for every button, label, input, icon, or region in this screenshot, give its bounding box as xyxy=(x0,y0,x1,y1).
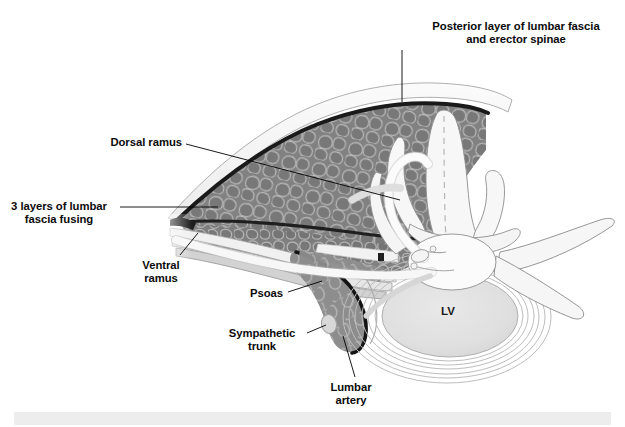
nerve-rootlet-tip-2 xyxy=(430,246,436,252)
label-dorsal-ramus-line1: Dorsal ramus xyxy=(22,136,182,149)
label-3-layers-of-lumbar-fascia-fusing-line2: fascia fusing xyxy=(3,213,115,226)
label-psoas: Psoas xyxy=(228,287,283,300)
label-ventral-ramus-line2: ramus xyxy=(130,272,192,285)
label-3-layers-of-lumbar-fascia-fusing-line1: 3 layers of lumbar xyxy=(3,200,115,213)
label-lumbar-artery-line2: artery xyxy=(320,394,382,407)
label-sympathetic-trunk: Sympathetictrunk xyxy=(222,327,302,354)
tendon-marker xyxy=(378,253,384,261)
label-lumbar-artery-line1: Lumbar xyxy=(320,381,382,394)
label-posterior-layer-of-lumbar-fascia-and-erector-spinae-line2: and erector spinae xyxy=(401,33,625,46)
label-psoas-line1: Psoas xyxy=(228,287,283,300)
label-posterior-layer-of-lumbar-fascia-and-erector-spinae-line1: Posterior layer of lumbar fascia xyxy=(401,20,625,33)
nerve-rootlet-tip xyxy=(411,263,417,269)
footer-strip xyxy=(14,412,611,425)
label-ventral-ramus: Ventralramus xyxy=(130,259,192,286)
label-posterior-layer-of-lumbar-fascia-and-erector-spinae: Posterior layer of lumbar fasciaand erec… xyxy=(401,20,625,47)
label-dorsal-ramus: Dorsal ramus xyxy=(22,136,182,149)
label-ventral-ramus-line1: Ventral xyxy=(130,259,192,272)
label-sympathetic-trunk-line2: trunk xyxy=(222,340,302,353)
label-sympathetic-trunk-line1: Sympathetic xyxy=(222,327,302,340)
label-3-layers-of-lumbar-fascia-fusing: 3 layers of lumbarfascia fusing xyxy=(3,200,115,227)
label-lumbar-artery: Lumbarartery xyxy=(320,381,382,408)
vertebral-body-label: LV xyxy=(441,305,455,317)
